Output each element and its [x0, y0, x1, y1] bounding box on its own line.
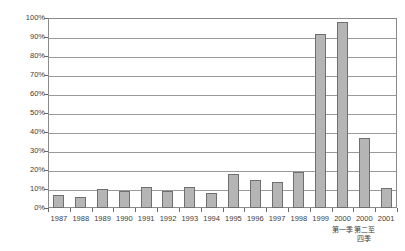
x-tick-mark: [353, 208, 354, 212]
x-tick-mark: [375, 208, 376, 212]
x-axis: 1987198819891990199119921993199419951996…: [48, 208, 397, 251]
plot-area: [48, 18, 397, 208]
x-tick-label: 2000: [334, 214, 351, 223]
x-tick-mark: [288, 208, 289, 212]
gridline: [49, 38, 396, 39]
gridline: [49, 171, 396, 172]
x-sub-label: 第二至: [354, 225, 375, 234]
x-tick-mark: [266, 208, 267, 212]
x-tick-label: 1991: [138, 214, 155, 223]
y-tick-label: 80%: [5, 52, 45, 60]
x-tick-label: 1989: [94, 214, 111, 223]
x-tick-label: 1998: [291, 214, 308, 223]
x-tick-label: 1995: [225, 214, 242, 223]
x-tick-label: 1994: [203, 214, 220, 223]
x-tick-label: 1999: [312, 214, 329, 223]
x-tick-mark: [48, 208, 49, 212]
y-tick-label: 100%: [5, 14, 45, 22]
x-tick-mark: [113, 208, 114, 212]
y-tick-label: 50%: [5, 109, 45, 117]
x-tick-label: 2000: [356, 214, 373, 223]
x-tick-mark: [135, 208, 136, 212]
y-tick-label: 0%: [5, 204, 45, 212]
x-tick-mark: [157, 208, 158, 212]
x-tick-mark: [332, 208, 333, 212]
gridline: [49, 152, 396, 153]
x-tick-mark: [179, 208, 180, 212]
gridline: [49, 190, 396, 191]
x-tick-mark: [223, 208, 224, 212]
y-tick-label: 30%: [5, 147, 45, 155]
x-tick-label: 1996: [247, 214, 264, 223]
y-tick-label: 40%: [5, 128, 45, 136]
x-tick-mark: [310, 208, 311, 212]
x-tick-mark: [70, 208, 71, 212]
y-tick-label: 90%: [5, 33, 45, 41]
x-tick-label: 1987: [51, 214, 68, 223]
x-tick-label: 2001: [378, 214, 395, 223]
x-tick-label: 1990: [116, 214, 133, 223]
gridline: [49, 95, 396, 96]
x-tick-label: 1992: [160, 214, 177, 223]
x-tick-mark: [201, 208, 202, 212]
x-tick-label: 1993: [181, 214, 198, 223]
y-tick-label: 10%: [5, 185, 45, 193]
x-tick-mark: [397, 208, 398, 212]
gridline: [49, 133, 396, 134]
gridline: [49, 57, 396, 58]
x-tick-label: 1997: [269, 214, 286, 223]
y-tick-label: 20%: [5, 166, 45, 174]
x-tick-label: 1988: [72, 214, 89, 223]
x-tick-mark: [244, 208, 245, 212]
gridline: [49, 76, 396, 77]
x-sub-label: 四季: [357, 234, 371, 243]
y-tick-label: 70%: [5, 71, 45, 79]
x-tick-mark: [92, 208, 93, 212]
gridline: [49, 114, 396, 115]
bar-chart: 100%90%80%70%60%50%40%30%20%10%0% 198719…: [0, 0, 405, 251]
y-tick-label: 60%: [5, 90, 45, 98]
x-sub-label: 第一季: [332, 225, 353, 234]
